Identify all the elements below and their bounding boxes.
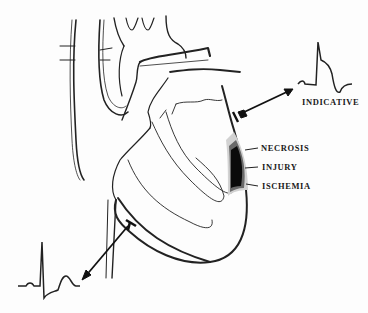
- vena-cava: [60, 20, 128, 180]
- heart-illustration: [0, 0, 368, 313]
- infarct-zones: [226, 132, 248, 196]
- heart-chambers: [128, 99, 234, 227]
- ischemia-label: ISCHEMIA: [262, 181, 311, 191]
- reciprocal-lead-arrow: [82, 220, 136, 280]
- pulmonary-artery: [122, 48, 240, 120]
- indicative-label: INDICATIVE: [302, 97, 359, 107]
- indicative-lead-arrow: [233, 89, 293, 122]
- aortic-arch: [114, 16, 186, 96]
- heart-infarct-diagram: INDICATIVE NECROSIS INJURY ISCHEMIA: [0, 0, 368, 313]
- indicative-ecg-trace: [298, 42, 352, 92]
- injury-label: INJURY: [262, 162, 297, 172]
- reciprocal-ecg-trace: [18, 242, 80, 298]
- necrosis-label: NECROSIS: [261, 143, 309, 153]
